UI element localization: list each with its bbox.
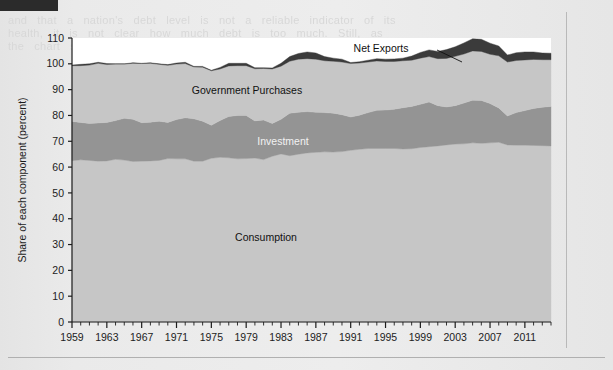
y-tick-label: 110 [47,32,64,44]
y-axis-title: Share of each component (percent) [16,97,28,262]
x-tick-label: 2007 [478,331,502,343]
x-tick-label: 2003 [444,331,468,343]
x-tick-label: 1991 [339,331,363,343]
y-tick-label: 90 [52,83,64,95]
band-label-government-purchases: Government Purchases [192,84,302,96]
band-label-net-exports: Net Exports [354,42,409,54]
x-tick-label: 1971 [165,331,189,343]
x-tick-label: 1995 [374,331,398,343]
x-axis-ticks-group: 1959196319671971197519791983198719911995… [60,322,551,343]
gdp-components-chart: 0102030405060708090100110 19591963196719… [0,0,613,370]
x-tick-label: 1967 [130,331,154,343]
y-tick-label: 10 [52,290,64,302]
x-tick-label: 1987 [304,331,328,343]
y-tick-label: 60 [52,161,64,173]
stacked-area-series-group [72,39,551,322]
band-label-investment: Investment [257,135,308,147]
x-tick-label: 1975 [200,331,224,343]
x-tick-label: 1979 [235,331,259,343]
stacked-area-chart-figure: 0102030405060708090100110 19591963196719… [0,0,613,370]
x-tick-label: 1999 [409,331,433,343]
y-tick-label: 80 [52,109,64,121]
x-tick-label: 1983 [269,331,293,343]
band-label-consumption: Consumption [235,231,297,243]
y-tick-label: 0 [58,316,64,328]
x-tick-label: 1959 [60,331,84,343]
y-axis-ticks-group: 0102030405060708090100110 [46,32,72,328]
y-tick-label: 30 [52,238,64,250]
area-series-consumption [72,142,551,322]
y-tick-label: 50 [52,187,64,199]
y-tick-label: 100 [46,57,64,69]
x-tick-label: 2011 [514,331,537,343]
y-tick-label: 40 [52,212,64,224]
x-tick-label: 1963 [95,331,119,343]
y-tick-label: 20 [52,264,64,276]
y-tick-label: 70 [52,135,64,147]
